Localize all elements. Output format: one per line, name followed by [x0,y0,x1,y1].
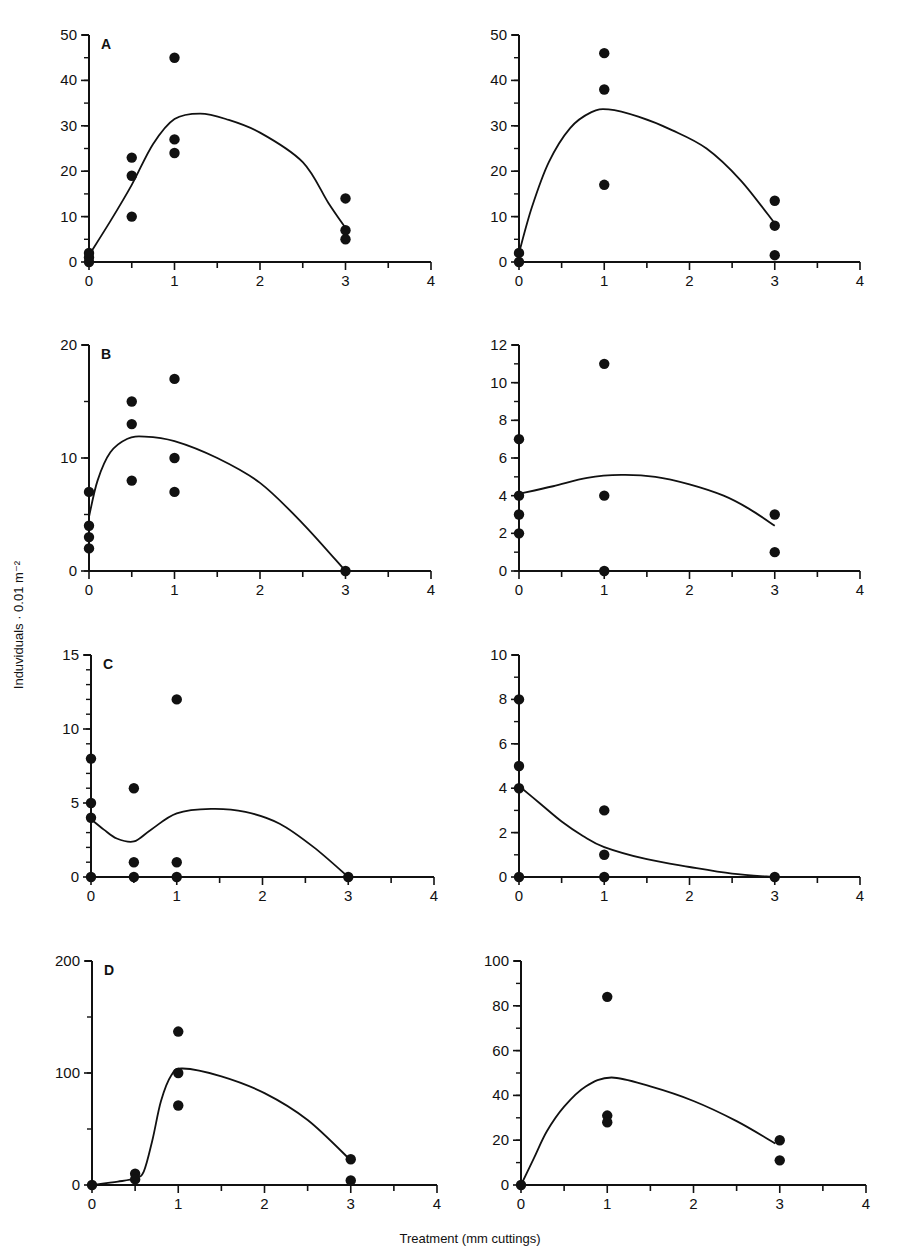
y-tick-label: 15 [62,646,79,663]
data-point [173,1100,183,1110]
fitted-curve [519,475,775,526]
y-tick-label: 10 [62,720,79,737]
data-point [127,419,137,429]
y-tick-label: 10 [60,208,77,225]
x-tick-label: 0 [515,581,523,598]
x-tick-label: 4 [862,1195,870,1212]
y-tick-label: 30 [60,117,77,134]
y-tick-label: 0 [499,253,507,270]
data-point [775,1135,785,1145]
data-point [127,211,137,221]
y-tick-label: 8 [499,690,507,707]
data-point [169,453,179,463]
y-tick-label: 0 [69,253,77,270]
data-point [599,180,609,190]
x-tick-label: 2 [260,1195,268,1212]
data-point [173,1026,183,1036]
data-point [770,250,780,260]
fitted-curve [519,109,775,253]
y-tick-label: 10 [490,374,507,391]
x-tick-label: 3 [771,272,779,289]
panel-label: A [101,36,111,52]
panel-D-right: 01234020406080100 [484,952,870,1212]
data-point [514,761,524,771]
x-tick-label: 1 [170,272,178,289]
y-tick-label: 40 [60,71,77,88]
y-tick-label: 2 [499,524,507,541]
y-tick-label: 4 [499,779,507,796]
data-point [86,753,96,763]
data-point [770,547,780,557]
y-tick-label: 0 [72,1176,80,1193]
y-tick-label: 5 [71,794,79,811]
data-point [599,48,609,58]
panel-label: D [104,962,114,978]
data-point [514,783,524,793]
x-tick-label: 1 [170,581,178,598]
x-tick-label: 4 [856,581,864,598]
x-tick-label: 2 [685,272,693,289]
y-tick-label: 0 [69,562,77,579]
x-tick-label: 3 [344,887,352,904]
data-point [514,434,524,444]
data-point [169,374,179,384]
panel-C-left: 01234051015C [62,646,438,904]
data-point [172,857,182,867]
x-tick-label: 3 [771,581,779,598]
panel-D-left: 012340100200D [55,952,441,1212]
x-tick-label: 2 [685,887,693,904]
x-tick-label: 0 [88,1195,96,1212]
data-point [169,134,179,144]
x-tick-label: 0 [515,887,523,904]
data-point [172,694,182,704]
data-point [599,490,609,500]
data-point [599,566,609,576]
data-point [514,248,524,258]
x-tick-label: 4 [427,581,435,598]
data-point [129,783,139,793]
panel-A-left: 0123401020304050A [60,26,435,289]
data-point [84,521,94,531]
y-tick-label: 10 [490,208,507,225]
panel-label: C [103,656,113,672]
fitted-curve [519,786,775,877]
data-point [340,566,350,576]
data-point [87,1180,97,1190]
data-point [127,171,137,181]
data-point [770,872,780,882]
x-tick-label: 2 [258,887,266,904]
x-tick-label: 0 [87,887,95,904]
data-point [770,509,780,519]
y-tick-label: 50 [60,26,77,43]
panel-A-right: 0123401020304050 [490,26,864,289]
x-tick-label: 0 [85,581,93,598]
panel-B-right: 01234024681012 [490,336,864,598]
x-tick-label: 1 [600,887,608,904]
data-point [346,1154,356,1164]
data-point [514,490,524,500]
data-point [516,1180,526,1190]
x-tick-label: 1 [600,581,608,598]
data-point [599,805,609,815]
fitted-curve [92,1069,351,1185]
data-point [129,857,139,867]
data-point [599,850,609,860]
fitted-curve [521,1077,775,1185]
data-point [770,220,780,230]
x-tick-label: 0 [515,272,523,289]
data-point [169,53,179,63]
y-tick-label: 200 [55,952,80,969]
data-point [172,872,182,882]
y-tick-label: 10 [490,646,507,663]
data-point [343,872,353,882]
y-tick-label: 0 [499,562,507,579]
data-point [340,234,350,244]
panel-C-right: 012340246810 [490,646,864,904]
x-tick-label: 3 [771,887,779,904]
y-tick-label: 30 [490,117,507,134]
data-point [602,992,612,1002]
x-tick-label: 2 [685,581,693,598]
x-tick-label: 1 [600,272,608,289]
y-tick-label: 10 [60,449,77,466]
data-point [514,872,524,882]
